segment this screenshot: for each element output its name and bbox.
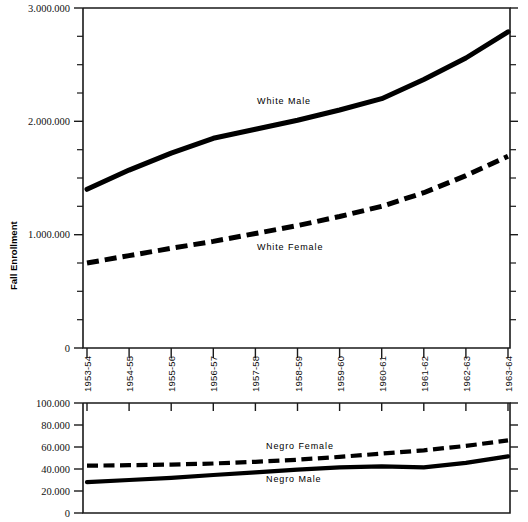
x-tick-label-0: 1953-54 bbox=[82, 356, 93, 392]
bottom-panel-ytick-label-1: 20.000 bbox=[41, 486, 70, 497]
bottom-panel: 100.000 80.000 60.000 40.000 20.000 0 bbox=[36, 398, 518, 519]
bottom-panel-ytick-label-4: 80.000 bbox=[41, 420, 70, 431]
series-line-white-male bbox=[87, 32, 508, 189]
top-panel-ytick-label-1: 1.000.000 bbox=[28, 229, 70, 240]
x-tick-label-7: 1960-61 bbox=[377, 356, 388, 392]
x-tick-label-10: 1963-64 bbox=[503, 356, 514, 392]
bottom-panel-ytick-label-2: 40.000 bbox=[41, 464, 70, 475]
series-label-white-male: White Male bbox=[257, 96, 311, 106]
x-tick-label-2: 1955-56 bbox=[166, 356, 177, 392]
x-tick-label-5: 1958-59 bbox=[293, 356, 304, 392]
x-tick-label-3: 1956-57 bbox=[208, 356, 219, 392]
series-label-negro-male: Negro Male bbox=[266, 474, 322, 484]
bottom-panel-x-ticks bbox=[87, 403, 508, 411]
series-label-white-female: White Female bbox=[257, 242, 323, 252]
top-panel-ytick-label-2: 2.000.000 bbox=[28, 116, 70, 127]
top-panel-ytick-label-0: 0 bbox=[65, 343, 70, 354]
x-tick-label-4: 1957-58 bbox=[250, 356, 261, 392]
bottom-panel-ytick-label-5: 100.000 bbox=[36, 398, 70, 409]
enrollment-figure: 3.000.000 2.000.000 1.000.000 0 Fall Enr… bbox=[0, 0, 528, 522]
bottom-panel-ytick-label-3: 60.000 bbox=[41, 442, 70, 453]
x-tick-label-8: 1961-62 bbox=[419, 356, 430, 392]
top-panel-y-ticks-right bbox=[510, 8, 518, 320]
top-panel-frame bbox=[83, 8, 510, 348]
x-tick-labels: 1953-54 1954-55 1955-56 1956-57 1957-58 … bbox=[82, 356, 514, 392]
bottom-panel-ytick-label-0: 0 bbox=[65, 508, 70, 519]
bottom-panel-y-ticks-right bbox=[510, 403, 518, 491]
chart-canvas: 3.000.000 2.000.000 1.000.000 0 Fall Enr… bbox=[0, 0, 528, 522]
x-tick-label-9: 1962-63 bbox=[461, 356, 472, 392]
x-tick-label-6: 1959-60 bbox=[335, 356, 346, 392]
series-label-negro-female: Negro Female bbox=[266, 441, 334, 451]
top-panel: 3.000.000 2.000.000 1.000.000 0 Fall Enr… bbox=[8, 3, 518, 393]
y-axis-title: Fall Enrollment bbox=[8, 221, 19, 290]
top-panel-y-ticks-minor bbox=[77, 36, 83, 319]
bottom-panel-frame bbox=[83, 403, 510, 513]
top-panel-ytick-label-3: 3.000.000 bbox=[28, 3, 70, 14]
x-tick-label-1: 1954-55 bbox=[124, 356, 135, 392]
bottom-panel-y-ticks bbox=[74, 403, 83, 513]
